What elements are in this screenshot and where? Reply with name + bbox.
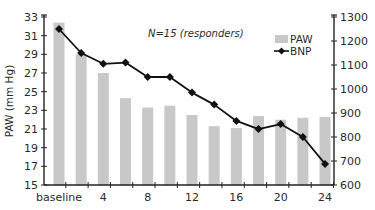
paw-bar bbox=[98, 73, 109, 185]
paw-bar bbox=[297, 118, 308, 185]
paw-bars bbox=[54, 23, 331, 185]
right-tick-label: 1100 bbox=[340, 59, 368, 72]
paw-bar bbox=[209, 126, 220, 185]
right-tick-label: 700 bbox=[340, 155, 361, 168]
right-tick-label: 600 bbox=[340, 179, 361, 192]
paw-bar bbox=[187, 115, 198, 185]
legend-swatch-paw bbox=[275, 35, 288, 43]
paw-bar bbox=[164, 106, 175, 185]
paw-bar bbox=[275, 120, 286, 185]
left-tick-label: 23 bbox=[24, 104, 38, 117]
right-tick-label: 900 bbox=[340, 107, 361, 120]
left-tick-label: 25 bbox=[24, 86, 38, 99]
paw-bar bbox=[320, 117, 331, 185]
x-axis: baseline4812162024 bbox=[36, 182, 334, 204]
left-tick-label: 21 bbox=[24, 123, 38, 136]
x-tick-label: 12 bbox=[185, 191, 199, 204]
right-tick-label: 1300 bbox=[340, 11, 368, 24]
left-tick-label: 33 bbox=[24, 11, 38, 24]
x-tick-label: 8 bbox=[144, 191, 151, 204]
left-tick-label: 31 bbox=[24, 30, 38, 43]
x-tick-label: 20 bbox=[274, 191, 288, 204]
paw-bar bbox=[142, 108, 153, 185]
right-tick-label: 1200 bbox=[340, 35, 368, 48]
left-tick-label: 19 bbox=[24, 142, 38, 155]
chart-annotation: N=15 (responders) bbox=[148, 28, 244, 39]
paw-bar bbox=[54, 23, 65, 185]
x-tick-label: 16 bbox=[229, 191, 243, 204]
x-tick-label: baseline bbox=[36, 191, 82, 204]
paw-bar bbox=[120, 98, 131, 185]
legend-label-paw: PAW bbox=[290, 33, 313, 45]
legend-label-bnp: BNP bbox=[290, 45, 311, 57]
left-tick-label: 29 bbox=[24, 48, 38, 61]
left-y-axis: 15171921232527293133 bbox=[24, 11, 47, 192]
combo-bar-line-chart: 15171921232527293133 6007008009001000110… bbox=[0, 0, 375, 210]
left-tick-label: 27 bbox=[24, 67, 38, 80]
left-axis-title: PAW (mm Hg) bbox=[3, 65, 15, 138]
paw-bar bbox=[76, 54, 87, 185]
legend: PAW BNP bbox=[274, 33, 313, 57]
chart-container: 15171921232527293133 6007008009001000110… bbox=[0, 0, 375, 210]
right-y-axis: 6007008009001000110012001300 bbox=[331, 11, 368, 192]
legend-marker-bnp-icon bbox=[278, 48, 285, 55]
left-tick-label: 17 bbox=[24, 160, 38, 173]
right-tick-label: 1000 bbox=[340, 83, 368, 96]
right-tick-label: 800 bbox=[340, 131, 361, 144]
paw-bar bbox=[231, 128, 242, 185]
x-tick-label: 4 bbox=[100, 191, 107, 204]
x-tick-label: 24 bbox=[318, 191, 332, 204]
bnp-marker-icon bbox=[99, 60, 107, 68]
